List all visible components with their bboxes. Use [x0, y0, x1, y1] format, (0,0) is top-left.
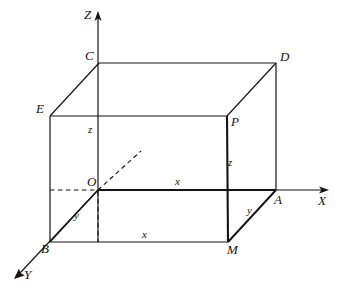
- edge-label-y-left: y: [74, 210, 79, 221]
- edge-c-e: [50, 63, 99, 116]
- x-axis-label: X: [318, 194, 326, 207]
- edge-label-z-right: z: [228, 157, 232, 168]
- vertex-label-c: C: [85, 49, 94, 62]
- vertex-label-d: D: [280, 50, 289, 63]
- hidden-construction-lines: [50, 151, 141, 242]
- edge-p-m: [227, 116, 228, 242]
- edge-label-y-right: y: [247, 205, 252, 216]
- vertex-label-e: E: [36, 102, 44, 115]
- y-axis-label: Y: [24, 268, 31, 281]
- geometry-figure: Z X Y O A B C D E P M x x y y z z: [0, 0, 341, 293]
- edge-d-p: [227, 63, 276, 116]
- edge-label-x-bottom: x: [142, 229, 147, 240]
- dashed-o-diagonal-to-p: [98, 151, 141, 190]
- edge-label-z-left: z: [88, 124, 92, 135]
- z-axis-label: Z: [84, 8, 91, 21]
- vertex-label-b: B: [41, 242, 49, 255]
- edge-m-a: [228, 190, 276, 242]
- edge-label-x-top: x: [175, 176, 180, 187]
- vertex-label-a: A: [274, 193, 282, 206]
- box-edges: [50, 63, 276, 242]
- vertex-label-p: P: [231, 115, 239, 128]
- vertex-label-m: M: [227, 243, 238, 256]
- figure-canvas: [0, 0, 341, 293]
- vertex-label-o: O: [87, 175, 96, 188]
